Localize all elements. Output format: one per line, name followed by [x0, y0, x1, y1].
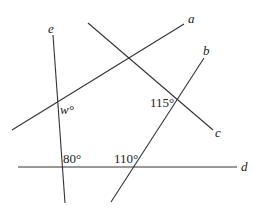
line-label-e: e — [48, 21, 54, 36]
line-label-c: c — [215, 125, 221, 140]
angle-label: 115° — [150, 95, 174, 110]
line-label-d: d — [241, 159, 248, 174]
line-b — [111, 58, 204, 202]
angle-label: 110° — [114, 151, 138, 166]
angle-label: w° — [60, 102, 74, 117]
angle-label: 80° — [63, 151, 81, 166]
line-e — [53, 35, 65, 203]
line-c — [88, 23, 213, 130]
line-a — [12, 24, 184, 130]
line-label-b: b — [203, 43, 210, 58]
geometry-diagram: abcde w°115°80°110° — [0, 0, 253, 211]
line-label-a: a — [188, 11, 195, 26]
